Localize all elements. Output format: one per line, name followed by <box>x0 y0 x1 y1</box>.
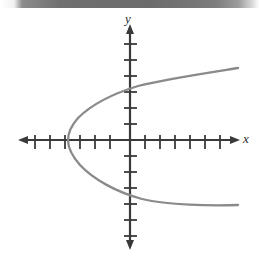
x-axis-arrow-left <box>18 136 28 144</box>
parabola-figure: y x <box>0 0 259 256</box>
x-axis-ticks <box>35 135 220 149</box>
y-axis-group <box>124 24 137 250</box>
y-axis-label: y <box>125 12 131 25</box>
y-axis-arrow-down <box>126 240 134 250</box>
coordinate-plane-svg <box>0 0 259 256</box>
x-axis-arrow-right <box>230 136 240 144</box>
x-axis-label: x <box>243 132 249 145</box>
parabola-curve <box>68 68 238 205</box>
